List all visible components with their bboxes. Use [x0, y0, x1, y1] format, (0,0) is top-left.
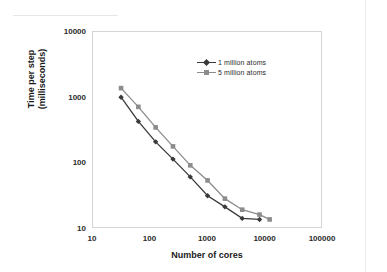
legend-item-1-million-atoms: 1 million atoms — [197, 57, 266, 67]
y-axis-title: Time per step (milliseconds) — [26, 16, 48, 142]
y-tick-label: 100 — [40, 158, 86, 167]
legend-key-square-icon — [197, 68, 216, 77]
chart-figure: 10000 1000 100 10 10 100 1000 10000 1000… — [0, 0, 387, 272]
y-axis-title-line1: Time per step — [26, 16, 37, 142]
x-tick-label: 10000 — [253, 234, 275, 243]
legend-label: 1 million atoms — [218, 59, 266, 66]
scan-artifact-right — [365, 0, 366, 272]
x-axis-title: Number of cores — [92, 250, 322, 260]
x-tick-label: 1000 — [198, 234, 216, 243]
chart-legend: 1 million atoms 5 million atoms — [197, 57, 266, 77]
legend-key-diamond-icon — [197, 58, 216, 67]
legend-item-5-million-atoms: 5 million atoms — [197, 67, 266, 77]
x-tick-label: 10 — [88, 234, 97, 243]
x-tick-label: 100000 — [309, 234, 336, 243]
y-axis-title-line2: (milliseconds) — [37, 16, 48, 142]
legend-label: 5 million atoms — [218, 69, 266, 76]
y-tick-label: 10 — [40, 224, 86, 233]
x-tick-label: 100 — [143, 234, 156, 243]
